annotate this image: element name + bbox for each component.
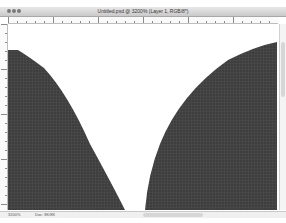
ruler-tick — [5, 186, 7, 187]
ruler-tick — [107, 21, 108, 23]
vertical-scrollbar[interactable] — [279, 24, 286, 210]
window-title: Untitled.psd @ 3200% (Layer 1, RGB/8*) — [0, 8, 286, 15]
ruler-tick — [242, 21, 243, 23]
ruler-tick — [1, 24, 7, 25]
title-bar[interactable]: Untitled.psd @ 3200% (Layer 1, RGB/8*) — [0, 7, 286, 17]
ruler-tick — [62, 21, 63, 23]
horizontal-ruler[interactable] — [8, 17, 278, 24]
ruler-tick — [170, 21, 171, 23]
ruler-tick — [269, 21, 270, 23]
ruler-tick — [1, 69, 7, 70]
ruler-tick — [5, 87, 7, 88]
ruler-tick — [5, 60, 7, 61]
ruler-tick — [80, 21, 81, 23]
ruler-tick — [1, 204, 7, 205]
vertical-ruler[interactable] — [0, 24, 8, 210]
ruler-tick — [152, 21, 153, 23]
ruler-tick — [188, 17, 189, 23]
ruler-tick — [5, 78, 7, 79]
pixel-art-canvas — [8, 24, 278, 210]
ruler-tick — [5, 168, 7, 169]
ruler-tick — [260, 21, 261, 23]
ruler-tick — [179, 21, 180, 23]
document-window: Untitled.psd @ 3200% (Layer 1, RGB/8*) 3… — [0, 7, 286, 217]
ruler-tick — [53, 17, 54, 23]
vertical-scroll-thumb[interactable] — [281, 42, 285, 97]
ruler-tick — [5, 123, 7, 124]
status-bar: 3200% Doc: 8K/8K — [0, 211, 286, 218]
ruler-tick — [5, 177, 7, 178]
zoom-level[interactable]: 3200% — [8, 212, 20, 218]
right-curved-shape — [145, 42, 277, 210]
ruler-tick — [233, 17, 234, 23]
ruler-tick — [125, 21, 126, 23]
ruler-tick — [5, 96, 7, 97]
ruler-tick — [5, 195, 7, 196]
ruler-tick — [206, 21, 207, 23]
ruler-tick — [26, 21, 27, 23]
ruler-tick — [98, 17, 99, 23]
ruler-tick — [215, 21, 216, 23]
ruler-tick — [197, 21, 198, 23]
ruler-tick — [17, 21, 18, 23]
ruler-tick — [134, 21, 135, 23]
document-info[interactable]: Doc: 8K/8K — [35, 212, 55, 218]
ruler-tick — [161, 21, 162, 23]
ruler-tick — [5, 141, 7, 142]
ruler-tick — [5, 105, 7, 106]
horizontal-scroll-thumb[interactable] — [143, 213, 203, 217]
ruler-tick — [5, 33, 7, 34]
ruler-tick — [8, 17, 9, 23]
ruler-tick — [5, 150, 7, 151]
ruler-tick — [5, 42, 7, 43]
left-curved-shape — [8, 50, 125, 210]
ruler-tick — [71, 21, 72, 23]
ruler-tick — [35, 21, 36, 23]
ruler-tick — [89, 21, 90, 23]
ruler-tick — [5, 51, 7, 52]
ruler-tick — [5, 132, 7, 133]
canvas[interactable] — [8, 24, 278, 210]
ruler-tick — [44, 21, 45, 23]
ruler-tick — [143, 17, 144, 23]
ruler-tick — [224, 21, 225, 23]
ruler-tick — [1, 159, 7, 160]
ruler-tick — [1, 114, 7, 115]
ruler-tick — [251, 21, 252, 23]
ruler-tick — [116, 21, 117, 23]
